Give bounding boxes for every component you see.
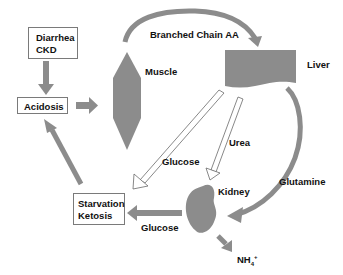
node-ketosis-label: Ketosis: [78, 210, 124, 222]
liver-shape: [225, 50, 296, 88]
diagram-canvas: Diarrhea CKD Acidosis Starvation Ketosis…: [0, 0, 343, 275]
arrow-kidney-to-nh4: [218, 236, 232, 252]
node-muscle-label: Muscle: [145, 67, 177, 77]
edge-label-branched-chain-aa: Branched Chain AA: [150, 30, 239, 40]
arrow-kidney-glucose: [127, 205, 182, 221]
edge-label-glucose-liver: Glucose: [162, 157, 200, 167]
nh4-superscript: +: [254, 254, 258, 260]
node-acidosis-label: Acidosis: [24, 101, 64, 112]
node-liver-label: Liver: [307, 60, 330, 70]
node-ckd-label: CKD: [36, 44, 77, 56]
nh4-subscript: 4: [251, 261, 254, 267]
node-starvation-ketosis: Starvation Ketosis: [73, 193, 125, 225]
arrow-diarrhea-to-acidosis: [38, 61, 54, 95]
node-starvation-label: Starvation: [78, 198, 124, 210]
edge-label-glutamine: Glutamine: [279, 177, 325, 187]
node-acidosis: Acidosis: [17, 97, 68, 114]
node-kidney-label: Kidney: [218, 187, 250, 197]
node-nh4-label: NH4+: [237, 255, 258, 265]
node-diarrhea-ckd: Diarrhea CKD: [28, 27, 78, 59]
edge-label-glucose-kidney: Glucose: [141, 223, 179, 233]
muscle-shape: [113, 52, 141, 150]
kidney-shape: [186, 185, 216, 233]
node-diarrhea-label: Diarrhea: [36, 32, 77, 44]
arrow-ketosis-to-acidosis: [44, 119, 81, 184]
edge-label-urea: Urea: [229, 138, 250, 148]
nh4-base: NH: [237, 254, 251, 265]
arrow-acidosis-to-muscle: [76, 97, 98, 114]
